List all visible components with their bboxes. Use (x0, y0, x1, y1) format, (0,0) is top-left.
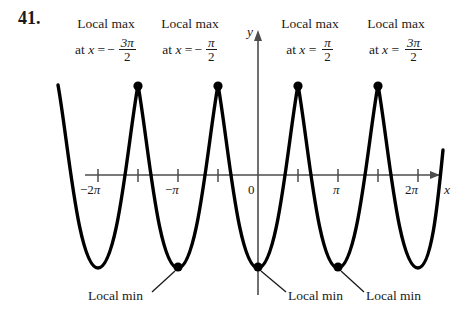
local-min-dot (173, 262, 182, 271)
local-max-dot (293, 81, 302, 90)
local-max-dot (373, 81, 382, 90)
at-x-equals: at x = (162, 42, 192, 59)
fraction: π 2 (322, 36, 333, 64)
local-max-annotation-3: Local max at x = π 2 (270, 16, 350, 64)
fraction: π 2 (206, 36, 217, 64)
x-tick-label-negpi: −π (165, 182, 179, 198)
min-leader-line (261, 271, 286, 292)
min-leader-line (341, 271, 364, 292)
local-max-title: Local max (64, 16, 148, 33)
x-axis-label: x (444, 182, 450, 198)
y-axis-label: y (247, 24, 253, 40)
at-x-equals: at x = (286, 42, 316, 59)
at-x-equals: at x = (369, 42, 399, 59)
local-max-title: Local max (270, 16, 350, 33)
local-min-label-3: Local min (366, 288, 421, 304)
local-min-label-2: Local min (288, 288, 343, 304)
figure-container: 41. (0, 0, 467, 313)
fraction: 3π 2 (119, 36, 136, 64)
local-max-annotation-4: Local max at x = 3π 2 (355, 16, 437, 64)
local-max-title: Local max (355, 16, 437, 33)
fraction: 3π 2 (405, 36, 422, 64)
local-max-annotation-2: Local max at x = − π 2 (148, 16, 232, 64)
x-tick-label-2pi: 2π (405, 182, 418, 198)
origin-label: 0 (248, 182, 255, 198)
local-min-dot (253, 262, 262, 271)
local-min-dots (173, 262, 342, 271)
local-max-annotation-1: Local max at x = − 3π 2 (64, 16, 148, 64)
local-max-expression: at x = π 2 (270, 37, 350, 65)
minus-sign: − (194, 42, 202, 59)
local-max-title: Local max (148, 16, 232, 33)
local-max-expression: at x = − 3π 2 (64, 37, 148, 65)
at-x-equals: at x = (75, 42, 105, 59)
min-leader-line (152, 271, 175, 292)
wave-curve (58, 85, 443, 268)
minus-sign: − (107, 42, 115, 59)
local-max-dot (133, 81, 142, 90)
local-max-dot (213, 81, 222, 90)
x-tick-label-pi: π (333, 182, 340, 198)
y-axis-arrowhead (254, 30, 262, 41)
local-min-dot (333, 262, 342, 271)
local-max-expression: at x = − π 2 (148, 37, 232, 65)
local-max-expression: at x = 3π 2 (355, 37, 437, 65)
local-min-label-1: Local min (88, 288, 143, 304)
x-tick-label-neg2pi: −2π (80, 182, 100, 198)
